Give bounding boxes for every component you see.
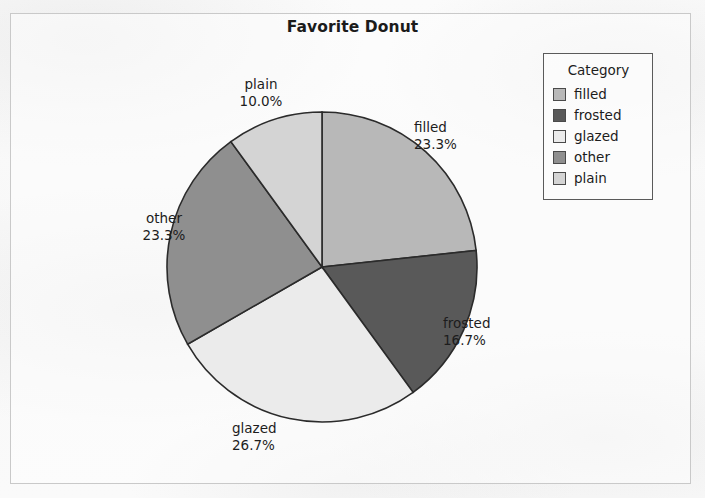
legend-swatch-filled (553, 88, 566, 101)
legend: Category filledfrostedglazedotherplain (543, 53, 653, 200)
slice-label-glazed-percent: 26.7% (232, 437, 342, 454)
legend-swatch-glazed (553, 130, 566, 143)
slice-label-other-name: other (109, 210, 219, 227)
slice-label-plain: plain 10.0% (206, 76, 316, 111)
pie-slice-group (167, 112, 477, 422)
legend-item-filled: filled (553, 84, 642, 105)
slice-label-plain-name: plain (206, 76, 316, 93)
legend-label-filled: filled (574, 88, 607, 102)
legend-item-glazed: glazed (553, 126, 642, 147)
legend-swatch-other (553, 151, 566, 164)
legend-swatch-frosted (553, 109, 566, 122)
slice-label-filled-name: filled (414, 119, 524, 136)
legend-item-plain: plain (553, 168, 642, 189)
slice-label-frosted: frosted 16.7% (443, 315, 553, 350)
legend-swatch-plain (553, 172, 566, 185)
slice-label-glazed: glazed 26.7% (232, 420, 342, 455)
slice-label-other-percent: 23.3% (109, 227, 219, 244)
slice-label-frosted-name: frosted (443, 315, 553, 332)
slice-label-frosted-percent: 16.7% (443, 332, 553, 349)
pie-chart (163, 108, 481, 426)
legend-label-other: other (574, 151, 610, 165)
slice-label-other: other 23.3% (109, 210, 219, 245)
pie-svg (163, 108, 481, 426)
legend-item-other: other (553, 147, 642, 168)
slice-label-filled-percent: 23.3% (414, 136, 524, 153)
chart-title: Favorite Donut (0, 18, 705, 36)
slice-label-filled: filled 23.3% (414, 119, 524, 154)
legend-label-glazed: glazed (574, 130, 619, 144)
slice-label-plain-percent: 10.0% (206, 93, 316, 110)
legend-item-list: filledfrostedglazedotherplain (553, 84, 642, 189)
legend-label-plain: plain (574, 172, 607, 186)
legend-title: Category (555, 62, 642, 78)
slice-label-glazed-name: glazed (232, 420, 342, 437)
legend-label-frosted: frosted (574, 109, 621, 123)
legend-item-frosted: frosted (553, 105, 642, 126)
